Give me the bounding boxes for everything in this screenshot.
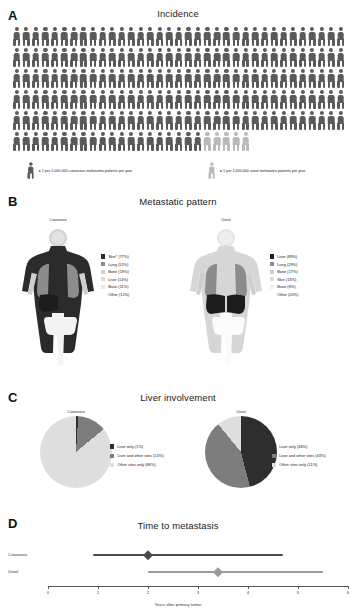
person-icon-dark [165, 68, 175, 89]
person-icon-dark [231, 110, 241, 131]
person-icon-dark [88, 26, 98, 47]
panel-c-legend-uveal: Liver only (46%) Liver and other sites (… [272, 444, 326, 467]
person-icon-dark [88, 68, 98, 89]
person-icon-dark [98, 68, 108, 89]
person-icon-dark [269, 26, 279, 47]
x-axis-tick [148, 586, 149, 589]
person-icon-dark [22, 68, 32, 89]
person-icon-dark [193, 89, 203, 110]
person-icon-dark [184, 26, 194, 47]
legend-item-uveal: = 1 per 1,000,000 uveal melanoma patient… [207, 160, 305, 181]
legend-label: Other sites only (11%) [279, 462, 317, 467]
person-icon-dark [31, 110, 41, 131]
person-icon-dark [69, 89, 79, 110]
panel-b-legend-cutaneous: Skin* (77%) Lung (51%) Bone (19%) Liver … [101, 254, 129, 297]
person-icon-dark [212, 47, 222, 68]
person-icon-dark [279, 110, 289, 131]
legend-row: Bone (17%) [270, 269, 298, 274]
person-icon-dark [69, 68, 79, 89]
person-icon-light [231, 131, 241, 152]
person-icon-dark [136, 89, 146, 110]
forest-row-label: Cutaneous [8, 552, 44, 557]
person-icon-dark [203, 47, 213, 68]
person-icon-dark [98, 131, 108, 152]
person-icon-dark [88, 89, 98, 110]
x-axis-tick [48, 586, 49, 589]
person-icon-dark [12, 110, 22, 131]
panel-b-legend-uveal: Liver (89%) Lung (29%) Bone (17%) Skin (… [270, 254, 298, 297]
legend-row: Bone (19%) [101, 269, 129, 274]
person-icon-dark [50, 47, 60, 68]
person-icon-dark [269, 89, 279, 110]
person-icon-dark [88, 131, 98, 152]
forest-median-marker [213, 567, 222, 576]
person-icon-dark [155, 68, 165, 89]
person-icon-dark [165, 26, 175, 47]
person-icon-dark [107, 47, 117, 68]
person-icon-dark [307, 68, 317, 89]
person-icon-dark [12, 89, 22, 110]
body-diagram-uveal: Uveal [186, 218, 266, 371]
person-icon-dark [145, 26, 155, 47]
x-axis-tick [248, 586, 249, 589]
pie-chart-cutaneous [40, 416, 112, 488]
person-icon-dark [50, 68, 60, 89]
person-icon-dark [22, 110, 32, 131]
person-icon-dark [336, 68, 346, 89]
person-icon-dark [60, 110, 70, 131]
person-icon-dark [288, 110, 298, 131]
legend-row: Lung (51%) [101, 262, 129, 267]
person-icon-dark [117, 26, 127, 47]
person-icon-dark [107, 131, 117, 152]
person-icon-dark [174, 26, 184, 47]
person-icon-dark [298, 110, 308, 131]
person-icon-dark [117, 68, 127, 89]
legend-label: Liver (89%) [277, 254, 297, 259]
legend-swatch-liver-and-other [110, 454, 114, 458]
person-icon-dark [79, 131, 89, 152]
person-icon-dark [241, 110, 251, 131]
legend-row: Other sites only (86%) [110, 462, 164, 467]
person-icon-dark [298, 47, 308, 68]
person-icon-dark [79, 89, 89, 110]
person-icon-dark [317, 26, 327, 47]
person-icon-dark [327, 68, 337, 89]
legend-swatch-liver [270, 254, 274, 258]
legend-swatch-lung [101, 262, 105, 266]
person-icon-dark [50, 131, 60, 152]
legend-swatch-brain [101, 285, 105, 289]
person-icon-dark [241, 68, 251, 89]
person-icon-dark [145, 110, 155, 131]
person-icon-dark [145, 68, 155, 89]
person-icon-dark [193, 68, 203, 89]
panel-a-incidence: A Incidence = 1 per 1,000,000 cutaneous … [0, 0, 356, 188]
person-icon-dark [212, 89, 222, 110]
legend-label: Other sites only (86%) [117, 462, 156, 467]
person-icon-dark [260, 110, 270, 131]
panel-a-letter: A [8, 8, 17, 23]
person-icon-dark [126, 89, 136, 110]
person-icon-dark [317, 68, 327, 89]
legend-label: Other (12%) [108, 292, 129, 297]
person-icon-dark [50, 110, 60, 131]
legend-label: Liver only (46%) [279, 444, 307, 449]
person-icon-dark [212, 68, 222, 89]
legend-label: Liver and other sites (43%) [279, 453, 326, 458]
legend-label: Skin* (77%) [108, 254, 129, 259]
x-axis-tick-label: 0 [47, 590, 49, 595]
x-axis-tick [348, 586, 349, 589]
pie-chart-cutaneous-label: Cutaneous [40, 410, 112, 414]
legend-swatch-brain [270, 285, 274, 289]
person-icon-dark [155, 26, 165, 47]
legend-row: Skin (13%) [270, 277, 298, 282]
panel-a-legend: = 1 per 1,000,000 cutaneous melanoma pat… [0, 160, 356, 181]
legend-swatch-liver [101, 277, 105, 281]
person-icon-dark [98, 47, 108, 68]
forest-row-label: Uveal [8, 569, 44, 574]
legend-swatch-other-only [110, 463, 114, 467]
legend-row: Brain (8%) [270, 284, 298, 289]
person-icon-dark [31, 26, 41, 47]
person-icon-dark [327, 26, 337, 47]
legend-label: Liver (14%) [108, 277, 128, 282]
legend-label: Skin (13%) [277, 277, 296, 282]
